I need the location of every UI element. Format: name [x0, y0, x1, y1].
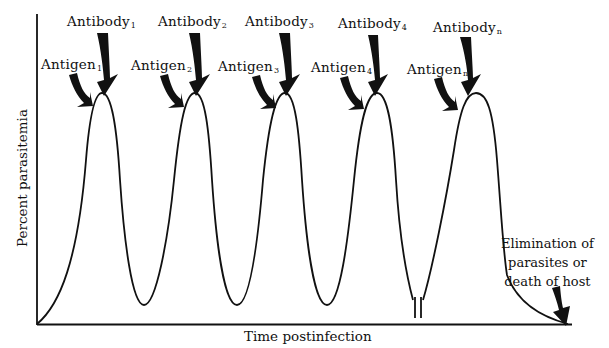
- antigen-label-2: Antigen2: [131, 57, 192, 74]
- parasitemia-curve: [37, 93, 413, 324]
- antigen-label-1: Antigen1: [41, 56, 102, 73]
- antibody-label-4: Antibody4: [338, 15, 407, 32]
- outcome-line-3: death of host: [501, 272, 594, 291]
- outcome-label: Elimination of parasites or death of hos…: [501, 234, 594, 291]
- antibody-label-1: Antibody1: [67, 13, 136, 30]
- antibody-label-n: Antibodyn: [433, 19, 502, 36]
- outcome-line-2: parasites or: [501, 253, 594, 272]
- antigen-label-4: Antigen4: [311, 59, 372, 76]
- antigen-arrows: [69, 73, 458, 111]
- antibody-label-2: Antibody2: [158, 13, 227, 30]
- x-axis-title: Time postinfection: [244, 328, 372, 344]
- antigen-arrow-icon: [434, 77, 458, 111]
- outcome-line-1: Elimination of: [501, 234, 594, 253]
- antigen-label-n: Antigenn: [407, 61, 468, 78]
- antigen-arrow-icon: [160, 74, 184, 108]
- antibody-arrow-icon: [279, 33, 300, 96]
- antigen-arrow-icon: [340, 76, 364, 110]
- y-axis-title: Percent parasitemia: [14, 109, 30, 247]
- antigen-arrow-icon: [252, 75, 276, 109]
- parasitemia-diagram: [0, 0, 609, 348]
- antibody-label-3: Antibody3: [245, 13, 314, 30]
- antigen-label-3: Antigen3: [218, 58, 279, 75]
- antigen-arrow-icon: [69, 73, 93, 107]
